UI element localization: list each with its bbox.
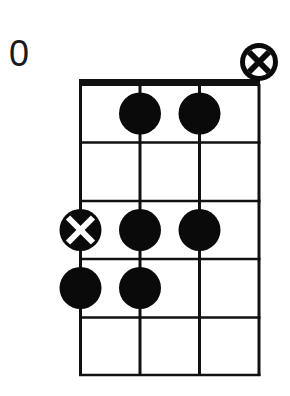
finger-dot: [119, 209, 161, 251]
finger-dot: [60, 267, 102, 309]
finger-dot: [119, 267, 161, 309]
chord-diagram: [0, 0, 290, 396]
finger-dot: [179, 93, 221, 135]
finger-dot: [179, 209, 221, 251]
muted-string-marker-icon: [240, 43, 278, 81]
root-note-x-icon: [60, 209, 102, 251]
frets: [79, 143, 261, 376]
nut: [79, 79, 260, 86]
finger-dot: [119, 93, 161, 135]
strings: [81, 84, 260, 376]
